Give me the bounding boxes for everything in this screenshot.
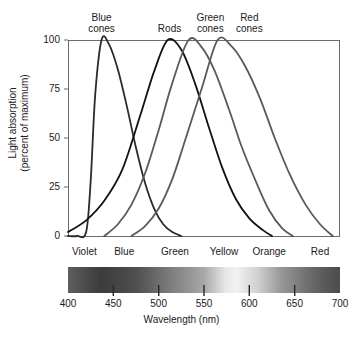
y-tick-marks: [64, 40, 68, 236]
x-tick-label: 700: [320, 298, 360, 309]
light-absorption-figure: Light absorption (percent of maximum) 02…: [0, 0, 363, 337]
x-tick-label: 550: [184, 298, 224, 309]
x-tick-label: 650: [275, 298, 315, 309]
curve-red-cones: [131, 37, 332, 236]
band-label-orange: Orange: [243, 246, 295, 257]
x-tick-label: 450: [93, 298, 133, 309]
x-tick-label: 600: [229, 298, 269, 309]
x-tick-label: 400: [48, 298, 88, 309]
band-label-blue: Blue: [98, 246, 150, 257]
band-label-yellow: Yellow: [198, 246, 250, 257]
band-label-green: Green: [149, 246, 201, 257]
x-tick-label: 500: [139, 298, 179, 309]
band-label-red: Red: [294, 246, 346, 257]
absorption-curves: [68, 36, 333, 237]
visible-spectrum-bar: [68, 267, 340, 293]
curve-rods: [68, 39, 272, 236]
x-axis-label: Wavelength (nm): [0, 314, 363, 325]
curve-blue-cones: [68, 36, 181, 237]
plot-frame: [69, 41, 340, 237]
